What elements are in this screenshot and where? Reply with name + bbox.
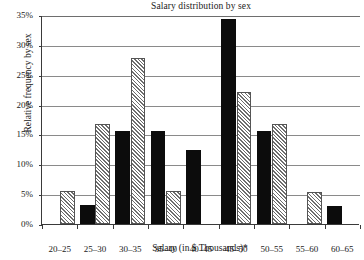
gridline-20% [42, 106, 360, 107]
bar-45-50-hatched-gray-series [237, 92, 252, 224]
bar-50-55-hatched-gray-series [272, 124, 287, 224]
y-tick-mark [39, 165, 43, 166]
y-tick-label: 25% [0, 70, 33, 80]
y-tick-mark [39, 106, 43, 107]
bar-30-35-solid-black-series [115, 131, 130, 224]
x-tick-mark [77, 225, 78, 229]
y-tick-label: 20% [0, 100, 33, 110]
chart-container: Salary distribution by sex Relative freq… [0, 0, 364, 260]
bar-35-40-hatched-gray-series [166, 191, 181, 224]
x-tick-mark [42, 225, 43, 229]
x-tick-mark [360, 225, 361, 229]
bar-55-60-hatched-gray-series [307, 192, 322, 224]
y-tick-mark [39, 195, 43, 196]
bar-40-45-solid-black-series [186, 150, 201, 224]
x-tick-mark [219, 225, 220, 229]
gridline-10% [42, 165, 360, 166]
bar-45-50-solid-black-series [221, 19, 236, 224]
y-tick-mark [39, 135, 43, 136]
x-tick-mark [183, 225, 184, 229]
y-axis-label: Relative frequency by sex [23, 0, 33, 173]
gridline-15% [42, 135, 360, 136]
bar-20-25-hatched-gray-series [60, 191, 75, 224]
y-tick-label: 15% [0, 129, 33, 139]
bar-35-40-solid-black-series [151, 131, 166, 224]
bar-25-30-hatched-gray-series [95, 124, 110, 224]
x-tick-mark [254, 225, 255, 229]
bar-25-30-solid-black-series [80, 205, 95, 224]
x-axis-label: Salary (in $ Thousands)* [41, 243, 359, 253]
y-tick-mark [39, 76, 43, 77]
bar-50-55-solid-black-series [257, 131, 272, 224]
y-tick-label: 35% [0, 10, 33, 20]
x-tick-mark [289, 225, 290, 229]
gridline-35% [42, 16, 360, 17]
bar-60-65-solid-black-series [327, 206, 342, 225]
y-tick-label: 30% [0, 40, 33, 50]
y-tick-mark [39, 16, 43, 17]
plot-area: 0%5%10%15%20%25%30%35% 20–2525–3030–3535… [41, 16, 359, 225]
y-tick-label: 5% [0, 189, 33, 199]
y-tick-label: 10% [0, 159, 33, 169]
gridline-30% [42, 46, 360, 47]
x-tick-mark [113, 225, 114, 229]
x-tick-mark [325, 225, 326, 229]
x-tick-mark [148, 225, 149, 229]
y-tick-label: 0% [0, 219, 33, 229]
chart-title: Salary distribution by sex [40, 1, 362, 11]
y-tick-mark [39, 46, 43, 47]
gridline-25% [42, 76, 360, 77]
bar-30-35-hatched-gray-series [131, 58, 146, 224]
